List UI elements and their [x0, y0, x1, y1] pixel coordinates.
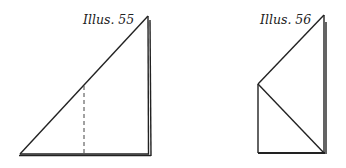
diagram-canvas: Illus. 55 Illus. 56	[0, 0, 346, 168]
illus-55-label: Illus. 55	[82, 12, 134, 27]
right-edge-layer	[150, 20, 151, 156]
illustration-56: Illus. 56	[258, 12, 326, 154]
hypotenuse	[20, 16, 148, 154]
illustration-55: Illus. 55	[19, 12, 151, 156]
right-edge	[148, 16, 149, 154]
lower-diagonal-edge	[258, 84, 324, 153]
illus-56-label: Illus. 56	[259, 12, 311, 27]
